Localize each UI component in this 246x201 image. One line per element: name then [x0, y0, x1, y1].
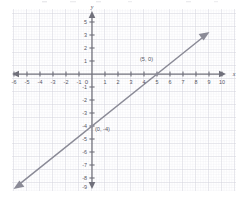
point-y-intercept — [91, 125, 94, 128]
y-tick-label: 2 — [84, 45, 87, 51]
point-x-intercept — [156, 73, 159, 76]
y-tick-label: 3 — [84, 32, 87, 38]
y-tick-label: -1 — [82, 84, 87, 90]
x-tick-label: 3 — [130, 79, 133, 85]
y-tick-label: -9 — [82, 184, 87, 190]
x-tick-label: 7 — [182, 79, 185, 85]
y-tick-label: -4 — [82, 123, 87, 129]
x-tick-label: -4 — [38, 79, 43, 85]
x-tick-label: 1 — [104, 79, 107, 85]
graph-figure: -6 -5 -4 -3 -2 -1 1 2 3 4 5 6 7 8 9 10 5… — [0, 0, 246, 201]
x-tick-label: 5 — [156, 79, 159, 85]
y-tick-label: -6 — [82, 149, 87, 155]
y-axis-label: y — [90, 4, 94, 10]
x-tick-label: 10 — [219, 79, 225, 85]
y-tick-label: -7 — [82, 162, 87, 168]
x-tick-label: 4 — [143, 79, 146, 85]
x-tick-label: -2 — [64, 79, 69, 85]
annotation-point-0-neg4: (0, -4) — [95, 126, 110, 132]
coordinate-plane-svg: -6 -5 -4 -3 -2 -1 1 2 3 4 5 6 7 8 9 10 5… — [0, 0, 246, 201]
x-tick-label: -5 — [25, 79, 30, 85]
x-tick-label: 2 — [117, 79, 120, 85]
x-tick-label: -3 — [51, 79, 56, 85]
annotation-point-5-0: (5, 0) — [140, 56, 153, 62]
y-tick-label: 5 — [84, 19, 87, 25]
y-tick-label: -2 — [82, 97, 87, 103]
x-tick-label: -6 — [12, 79, 17, 85]
y-tick-label: -3 — [82, 110, 87, 116]
x-tick-label: 9 — [208, 79, 211, 85]
x-tick-label: 8 — [195, 79, 198, 85]
x-tick-label: 6 — [169, 79, 172, 85]
x-tick-label: -1 — [77, 79, 82, 85]
y-tick-label: -5 — [82, 136, 87, 142]
y-tick-label: -8 — [82, 175, 87, 181]
y-tick-label: 1 — [84, 58, 87, 64]
x-axis-label: x — [232, 71, 236, 77]
